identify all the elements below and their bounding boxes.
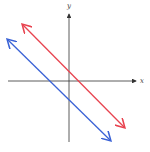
y-axis-label: y (66, 2, 72, 10)
red-line (23, 25, 124, 127)
blue-line (8, 40, 110, 140)
coordinate-plane: x y (0, 0, 150, 152)
x-axis-label: x (140, 77, 144, 85)
